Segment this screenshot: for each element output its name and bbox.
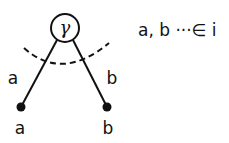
endpoint-right [103, 103, 112, 112]
endpoint-label-right: b [103, 118, 114, 138]
annotation-text: a, b ···∈ i [138, 20, 217, 40]
diagram-canvas: γ a b a b a, b ···∈ i [0, 0, 229, 143]
edge-right [73, 40, 107, 107]
vertex-label: γ [60, 17, 71, 38]
endpoint-left [17, 103, 26, 112]
edge-label-right: b [107, 68, 118, 88]
endpoint-label-left: a [15, 118, 25, 138]
dashed-cut-arc [24, 43, 109, 64]
edge-label-left: a [8, 68, 18, 88]
